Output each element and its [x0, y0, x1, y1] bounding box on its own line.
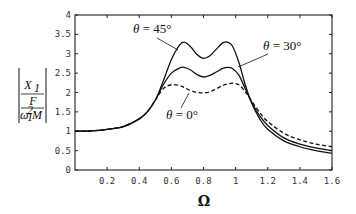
x-tick-label: 0.4: [131, 176, 147, 186]
y-tick-label: 0: [66, 165, 71, 175]
x-tick-label: 0.8: [195, 176, 211, 186]
data-series: [75, 42, 332, 154]
y-label-denominator-tail: M: [31, 108, 43, 122]
leader-theta-0: [181, 93, 189, 108]
x-tick-label: 1: [233, 176, 238, 186]
x-axis-title: Ω: [198, 193, 210, 209]
y-tick-label: 0.5: [55, 146, 71, 156]
x-tick-label: 0.2: [99, 176, 115, 186]
curve-theta-0: [75, 83, 332, 147]
curve-theta-45: [75, 42, 332, 154]
frequency-response-chart: X1Fω21M 00.511.522.533.54 0.20.40.60.811…: [0, 0, 356, 214]
label-theta-45: θ = 45°: [133, 21, 171, 36]
y-tick-label: 1.5: [55, 107, 71, 117]
y-tick-label: 4: [66, 10, 71, 20]
y-tick-label: 3: [66, 49, 71, 59]
y-tick-label: 1: [66, 126, 71, 136]
x-tick-label: 0.6: [163, 176, 179, 186]
leader-theta-45: [157, 38, 178, 50]
label-theta-30: θ = 30°: [263, 38, 301, 53]
y-tick-label: 2.5: [55, 68, 71, 78]
x-tick-label: 1.4: [292, 176, 308, 186]
label-theta-0: θ = 0°: [166, 107, 198, 122]
y-tick-label: 2: [66, 88, 71, 98]
y-label-numerator: X: [23, 78, 32, 92]
x-axis-ticks: 0.20.40.60.811.21.41.6: [99, 15, 340, 186]
y-axis-label: X1Fω21M: [19, 68, 46, 124]
y-tick-label: 3.5: [55, 29, 71, 39]
leader-theta-30: [238, 54, 268, 67]
y-axis-ticks: 00.511.522.533.54: [55, 10, 332, 175]
x-tick-label: 1.2: [260, 176, 276, 186]
x-tick-label: 1.6: [324, 176, 340, 186]
y-label-numerator-sub: 1: [34, 81, 40, 95]
